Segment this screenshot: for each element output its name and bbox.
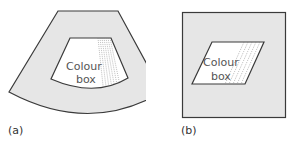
colour-box-a-line2: box: [76, 73, 96, 86]
panel-b-label: (b): [181, 124, 197, 137]
panel-a-label: (a): [8, 124, 23, 137]
colour-box-a-line1: Colour: [66, 60, 102, 73]
colour-box-b-line2: box: [211, 70, 231, 83]
colour-box-b-line1: Colour: [203, 56, 239, 69]
figure-text: Colour box Colour box (a) (b): [0, 0, 292, 146]
